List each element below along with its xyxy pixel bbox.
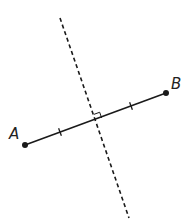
point-b-dot xyxy=(163,90,169,96)
point-a-dot xyxy=(22,142,28,148)
point-a-label: A xyxy=(8,125,19,143)
perpendicular-bisector-dashed-line xyxy=(60,18,129,218)
segment-ab xyxy=(25,93,166,145)
point-b-label: B xyxy=(171,75,181,93)
diagram-canvas: A B xyxy=(0,0,189,221)
